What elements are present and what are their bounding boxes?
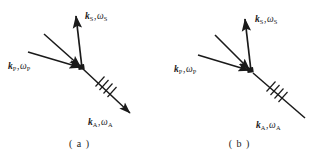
panel-a-vector-diagram	[0, 0, 159, 160]
label-kp-omegap-a: kP,ωP	[8, 62, 30, 72]
label-ka-omegaa-a: kA,ωA	[88, 118, 113, 128]
hatch-marks	[96, 77, 117, 98]
label-ka-omegaa-b: kA,ωA	[256, 121, 281, 131]
panel-b-caption: ( b )	[160, 138, 319, 149]
label-ks-omegas-b: kS,ωS	[255, 15, 277, 25]
vector-kp-arrow-upper	[215, 35, 250, 70]
panel-b-vector-diagram	[160, 0, 319, 160]
label-ks-omegas-a: kS,ωS	[85, 12, 107, 22]
figure-root: kS,ωS kP,ωP kA,ωA ( a )	[0, 0, 319, 160]
vector-ks-arrow	[245, 19, 251, 71]
panel-a: kS,ωS kP,ωP kA,ωA ( a )	[0, 0, 159, 160]
vector-ka-line	[253, 73, 305, 118]
hatch-marks	[267, 82, 288, 103]
label-kp-omegap-b: kP,ωP	[174, 65, 196, 75]
vertex-node	[247, 67, 254, 73]
vector-ks-arrow	[76, 16, 82, 68]
vertex-node	[78, 64, 85, 70]
panel-b: kS,ωS kP,ωP kA,ωA ( b )	[160, 0, 319, 160]
panel-a-caption: ( a )	[0, 138, 159, 149]
